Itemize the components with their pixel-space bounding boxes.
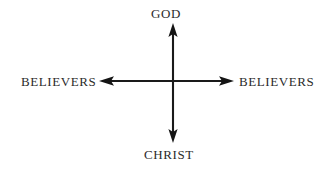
diagram-canvas: GOD CHRIST BELIEVERS BELIEVERS (0, 0, 327, 170)
label-believers-right: BELIEVERS (239, 75, 314, 88)
label-believers-left: BELIEVERS (21, 75, 96, 88)
label-christ: CHRIST (144, 148, 194, 161)
label-god: GOD (151, 7, 181, 20)
